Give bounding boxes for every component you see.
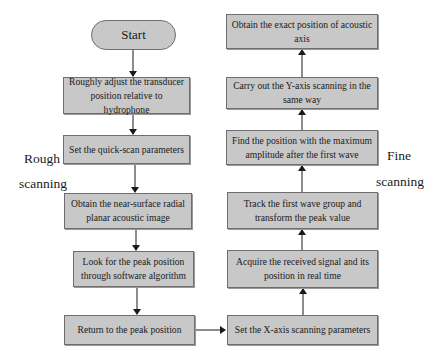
rough-label-line1: Rough [24, 151, 60, 167]
step-track-first-wave: Track the first wave group and transform… [227, 192, 378, 229]
start-terminator: Start [91, 20, 176, 50]
step-label: Find the position with the maximum ampli… [230, 134, 374, 162]
fine-label-line2: scanning [376, 174, 424, 190]
step-obtain-acoustic-image: Obtain the near-surface radial planar ac… [64, 193, 192, 229]
step-y-axis-scan: Carry out the Y-axis scanning in the sam… [226, 77, 378, 109]
flowchart-canvas: Start Roughly adjust the transducer posi… [0, 0, 444, 362]
step-adjust-transducer: Roughly adjust the transducer position r… [63, 77, 190, 114]
step-look-for-peak: Look for the peak position through softw… [73, 251, 194, 287]
fine-label-line1: Fine [387, 148, 411, 164]
step-acquire-signal: Acquire the received signal and its posi… [227, 250, 378, 288]
step-return-to-peak: Return to the peak position [64, 315, 195, 345]
step-label: Obtain the near-surface radial planar ac… [68, 197, 188, 225]
step-label: Set the quick-scan parameters [69, 143, 184, 157]
step-label: Carry out the Y-axis scanning in the sam… [230, 79, 374, 107]
start-label: Start [121, 27, 146, 43]
step-label: Track the first wave group and transform… [231, 197, 374, 225]
step-set-quick-scan: Set the quick-scan parameters [63, 135, 190, 164]
step-find-max-amplitude: Find the position with the maximum ampli… [226, 130, 378, 165]
step-label: Obtain the exact position of acoustic ax… [230, 18, 374, 46]
step-obtain-acoustic-axis: Obtain the exact position of acoustic ax… [226, 14, 378, 49]
step-label: Roughly adjust the transducer position r… [67, 75, 186, 117]
step-label: Set the X-axis scanning parameters [235, 323, 370, 337]
step-label: Return to the peak position [78, 323, 182, 337]
rough-label-line2: scanning [19, 176, 67, 192]
step-label: Look for the peak position through softw… [77, 255, 190, 283]
step-label: Acquire the received signal and its posi… [231, 255, 374, 283]
step-set-x-axis-params: Set the X-axis scanning parameters [227, 315, 378, 345]
